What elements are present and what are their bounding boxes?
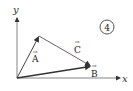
y-axis-label: y	[12, 4, 19, 15]
problem-number-badge: 4	[100, 20, 114, 34]
x-axis-label: x	[122, 73, 128, 84]
svg-text:C: C	[74, 45, 81, 55]
vector-a-label: → A	[31, 48, 39, 64]
svg-text:A: A	[31, 54, 39, 64]
vector-c-label: → C	[74, 38, 81, 55]
svg-text:B: B	[91, 69, 98, 79]
vector-c	[39, 36, 90, 66]
arrow-over-b-icon: →	[92, 62, 97, 69]
vector-b	[17, 67, 90, 79]
arrow-over-c-icon: →	[75, 38, 80, 45]
diagram-canvas: y x → A → C → B	[0, 0, 133, 91]
problem-number: 4	[104, 23, 110, 33]
vector-b-label: → B	[91, 62, 98, 79]
vector-diagram: y x → A → C → B	[0, 0, 133, 91]
